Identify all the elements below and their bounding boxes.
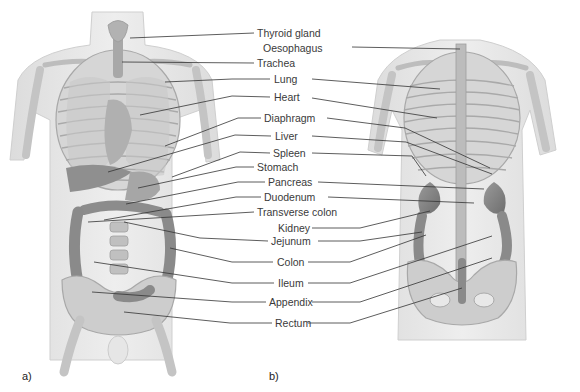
label-thyroid-gland: Thyroid gland	[257, 27, 321, 39]
label-stomach: Stomach	[257, 161, 298, 173]
label-jejunum: Jejunum	[271, 235, 311, 247]
label-ileum: Ileum	[278, 277, 304, 289]
label-diaphragm: Diaphragm	[264, 112, 315, 124]
label-kidney: Kidney	[278, 222, 310, 234]
label-oesophagus: Oesophagus	[263, 42, 323, 54]
label-transverse-colon: Transverse colon	[257, 206, 337, 218]
label-spleen: Spleen	[273, 147, 306, 159]
panel-label-b: b)	[269, 370, 279, 382]
label-trachea: Trachea	[257, 57, 295, 69]
label-liver: Liver	[275, 130, 298, 142]
label-rectum: Rectum	[275, 317, 311, 329]
anatomy-figure: Thyroid gland Oesophagus Trachea Lung He…	[0, 0, 580, 392]
label-appendix: Appendix	[269, 296, 313, 308]
label-lung: Lung	[274, 73, 297, 85]
label-duodenum: Duodenum	[264, 191, 315, 203]
panel-label-a: a)	[22, 370, 32, 382]
label-colon: Colon	[277, 256, 304, 268]
label-heart: Heart	[274, 91, 300, 103]
label-pancreas: Pancreas	[268, 176, 312, 188]
posterior-torso	[368, 40, 556, 340]
